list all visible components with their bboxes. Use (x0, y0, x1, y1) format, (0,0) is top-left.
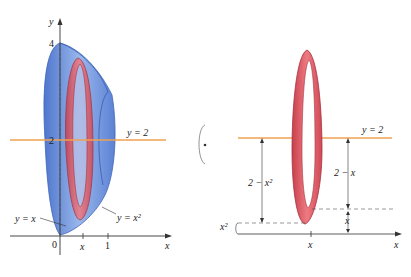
curve-label-linear: y = x (15, 214, 36, 224)
x-tick-label-right: x (308, 240, 312, 250)
x2-label: x² (220, 222, 227, 232)
x-axis-label-right: x (394, 240, 398, 250)
outer-radius-label: 2 − x² (248, 178, 272, 188)
washer-ring (292, 50, 322, 224)
line-label-right: y = 2 (362, 125, 383, 135)
diagram-canvas (0, 0, 411, 277)
left-solid-of-revolution (44, 43, 115, 235)
tick-y4: 4 (49, 39, 54, 49)
tick-x1: 1 (105, 241, 110, 251)
line-label-left: y = 2 (127, 128, 148, 138)
tick-x0: 0 (52, 240, 57, 250)
curve-label-parabola: y = x² (117, 213, 141, 223)
y-axis-label: y (49, 17, 53, 27)
small-x-label: x (345, 216, 349, 226)
tick-y2: 2 (49, 136, 54, 146)
x-axis-label: x (165, 241, 169, 251)
rotation-arrow-icon (199, 125, 206, 164)
inner-radius-label: 2 − x (334, 168, 355, 178)
tick-xx: x (80, 242, 84, 252)
